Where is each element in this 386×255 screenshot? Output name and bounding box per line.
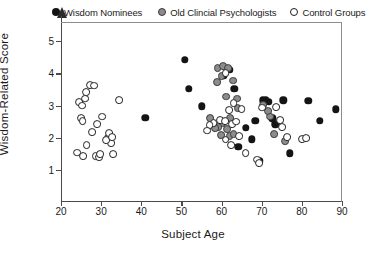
y-tick-label: 5 [48,36,54,47]
legend-entry-control-groups: Control Groups [290,7,365,18]
data-point [109,150,117,158]
plot-right-border [341,22,342,202]
x-tick-label: 70 [256,206,267,217]
legend-label-old-clinical-psychologists: Old Clincial Psychologists [170,7,276,18]
x-axis-line [61,201,342,202]
x-tick-label: 30 [96,206,107,217]
x-axis-title: Subject Age [0,228,386,240]
data-point [90,82,98,90]
data-point [115,96,123,104]
y-tick-label: 1 [48,164,54,175]
data-point [78,102,86,110]
data-point [305,97,312,104]
data-point [203,127,211,135]
legend-label-control-groups: Control Groups [302,7,365,18]
data-point [96,151,104,159]
data-point [238,105,246,113]
y-tick [56,106,61,107]
gray-circle-icon [158,8,166,16]
data-point [88,128,96,136]
x-tick-label: 60 [216,206,227,217]
data-point [283,133,291,141]
data-point [231,85,238,92]
data-point [225,106,233,114]
data-point [185,85,192,92]
y-tick-label: 4 [48,68,54,79]
x-tick-label: 40 [136,206,147,217]
data-point [278,123,286,131]
x-tick-label: 50 [176,206,187,217]
y-axis-line [61,16,62,202]
data-point [302,134,310,142]
data-point [198,103,205,110]
data-point [242,149,250,157]
data-point [81,95,89,103]
data-point [252,117,259,124]
chart-legend: Wisdom Nominees Old Clincial Psychologis… [52,4,384,20]
data-point [79,117,87,125]
open-circle-icon [290,8,298,16]
data-point [80,152,88,160]
data-point [98,113,106,121]
data-point [332,106,339,113]
data-point [316,117,323,124]
legend-label-wisdom-nominees: Wisdom Nominees [64,7,142,18]
x-tick-label: 90 [336,206,347,217]
data-point [235,143,242,150]
data-point [255,159,263,167]
data-point [227,142,235,150]
data-point [272,103,280,111]
data-point [232,118,240,126]
data-point [142,114,149,121]
y-axis-title: Wisdom-Related Score [0,33,10,155]
y-tick [56,41,61,42]
data-point [286,149,293,156]
data-point [235,132,243,140]
data-point [258,104,266,112]
data-point [242,124,249,131]
data-point [222,93,230,101]
data-point [280,97,287,104]
x-tick-label: 20 [55,206,66,217]
y-tick-label: 2 [48,132,54,143]
data-point [222,69,230,77]
plot-top-border [61,22,342,23]
data-point [229,77,237,85]
plot-area: 123452030405060708090 [61,22,342,202]
data-point [270,130,278,138]
x-tick-label: 80 [296,206,307,217]
y-tick [56,73,61,74]
data-point [181,56,188,63]
y-tick [56,138,61,139]
y-tick-label: 3 [48,100,54,111]
legend-entry-old-clinical-psychologists: Old Clincial Psychologists [158,7,276,18]
data-point [108,133,116,141]
data-point [248,136,255,143]
y-tick [56,170,61,171]
scatter-plot-figure: Wisdom Nominees Old Clincial Psychologis… [0,0,386,255]
data-point [83,141,91,149]
data-point [93,120,101,128]
data-point [266,113,274,121]
